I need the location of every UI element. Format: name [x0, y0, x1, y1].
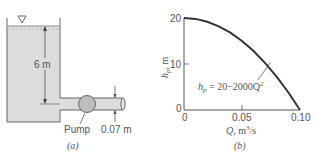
y-tick-10: 10 — [170, 59, 182, 70]
x-tick-010: 0.10 — [291, 112, 311, 123]
panel-a-caption: (a) — [67, 140, 79, 152]
panel-b-pump-curve-chart: 20 10 0 0 0.05 0.10 hp = 20−2000Q2 hp, m… — [159, 13, 311, 152]
x-tick-005: 0.05 — [232, 112, 252, 123]
free-surface-icon — [18, 16, 26, 23]
x-tick-0: 0 — [182, 112, 188, 123]
annotation-leader — [258, 63, 270, 80]
panel-a-tank-diagram: 6 m Pump 0.07 m (a) — [7, 16, 132, 152]
equation-label: hp = 20−2000Q2 — [198, 80, 264, 94]
x-axis-label: Q, m3/s — [226, 124, 256, 136]
panel-b-caption: (b) — [234, 140, 246, 152]
pipe-outlet-end — [121, 98, 125, 110]
figure: 6 m Pump 0.07 m (a) 20 10 0 0 0.05 0.10 … — [0, 0, 318, 161]
y-tick-20: 20 — [170, 13, 182, 24]
pump-icon — [79, 96, 96, 113]
pump-curve-line — [184, 18, 300, 110]
pump-label: Pump — [64, 124, 91, 135]
diameter-label: 0.07 m — [101, 124, 132, 135]
depth-label: 6 m — [34, 59, 51, 70]
tank-water — [7, 26, 60, 122]
